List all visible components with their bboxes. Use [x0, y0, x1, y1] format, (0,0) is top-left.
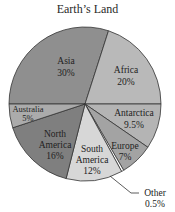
label-south-america-line1: South — [81, 144, 103, 154]
label-north-america-line1: North — [44, 129, 66, 139]
label-australia-value: 5% — [22, 113, 33, 123]
label-north-america-value: 16% — [46, 151, 64, 161]
label-antarctica-name: Antarctica — [114, 108, 154, 118]
label-europe-value: 7% — [119, 152, 132, 162]
label-other-value: 0.5% — [145, 199, 165, 209]
pie-chart: Asia 30% Africa 20% Antarctica 9.5% Euro… — [0, 0, 175, 212]
label-europe-name: Europe — [111, 141, 138, 151]
other-leader-line — [110, 176, 131, 193]
label-africa-value: 20% — [117, 77, 135, 87]
label-south-america-line2: America — [76, 155, 109, 165]
label-south-america-value: 12% — [83, 166, 101, 176]
label-asia-value: 30% — [57, 68, 75, 78]
label-antarctica-value: 9.5% — [124, 120, 144, 130]
label-other-name: Other — [144, 188, 166, 198]
label-asia-name: Asia — [57, 56, 75, 66]
label-north-america-line2: America — [39, 140, 72, 150]
label-africa-name: Africa — [114, 65, 139, 75]
